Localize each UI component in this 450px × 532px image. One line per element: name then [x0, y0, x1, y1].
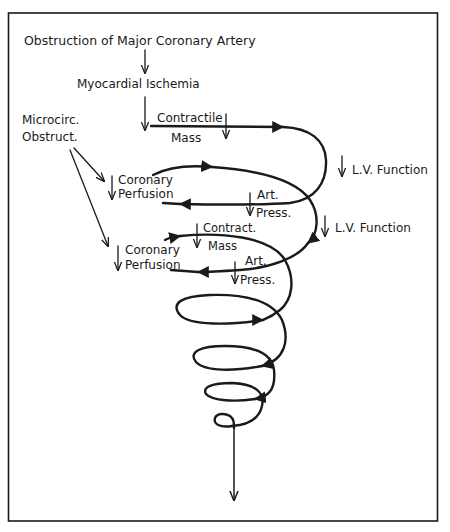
contractile-mass-label-line1: Contractile [157, 111, 223, 125]
art-press-2-line2: Press. [240, 273, 275, 287]
title-label: Obstruction of Major Coronary Artery [24, 33, 256, 48]
diagram-canvas: Obstruction of Major Coronary Artery Myo… [0, 0, 450, 532]
ischemia-label: Myocardial Ischemia [77, 77, 200, 91]
contract-mass-2-line1: Contract. [203, 221, 256, 235]
spiral-loop-1-top [151, 126, 283, 127]
arrow-microcirc-to-perfusion-1 [74, 148, 104, 181]
contract-mass-2-line2: Mass [208, 239, 237, 253]
art-press-1-line1: Art. [257, 188, 279, 202]
lv-function-label-2: L.V. Function [335, 221, 411, 235]
contractile-mass-label-line2: Mass [171, 131, 201, 145]
art-press-1-line2: Press. [256, 206, 291, 220]
microcirc-label-line2: Obstruct. [22, 130, 78, 144]
coronary-perfusion-1-line1: Coronary [118, 173, 173, 187]
spiral-loop-1-tail [163, 203, 180, 204]
coronary-perfusion-1-line2: Perfusion [118, 187, 174, 201]
spiral-loop-7 [215, 414, 234, 428]
microcirc-label-line1: Microcirc. [22, 113, 79, 127]
diagram-frame [9, 13, 438, 521]
coronary-perfusion-2-line1: Coronary [125, 243, 180, 257]
spiral-loop-3-start [165, 236, 180, 240]
lv-function-label-1: L.V. Function [352, 163, 428, 177]
